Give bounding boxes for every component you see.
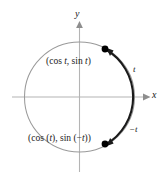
unit-circle-figure: y x (cos t, sin t) (cos (t), sin (−t)) t… xyxy=(0,0,167,180)
lower-point-dot xyxy=(102,141,109,148)
lower-label-suffix: )) xyxy=(85,133,91,143)
upper-label-mid: , sin xyxy=(67,56,85,66)
x-axis-arrowhead xyxy=(143,94,151,101)
lower-label-mid: ), sin (− xyxy=(52,133,82,143)
arc-label-t: t xyxy=(133,65,136,74)
upper-point-label: (cos t, sin t) xyxy=(46,57,91,67)
upper-label-suffix: ) xyxy=(88,56,91,66)
y-axis-label: y xyxy=(75,9,79,19)
figure-canvas xyxy=(0,0,167,180)
arc-label-negative-t: −t xyxy=(129,125,138,134)
y-axis-arrowhead xyxy=(76,21,83,28)
lower-point-label: (cos (t), sin (−t)) xyxy=(28,134,91,144)
lower-label-prefix: (cos ( xyxy=(28,133,49,143)
x-axis-label: x xyxy=(152,90,156,100)
upper-point-dot xyxy=(102,46,109,53)
upper-label-prefix: (cos xyxy=(46,56,64,66)
